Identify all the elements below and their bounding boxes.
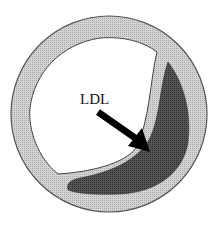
- ldl-label: LDL: [80, 91, 109, 107]
- artery-diagram: LDL: [0, 0, 222, 230]
